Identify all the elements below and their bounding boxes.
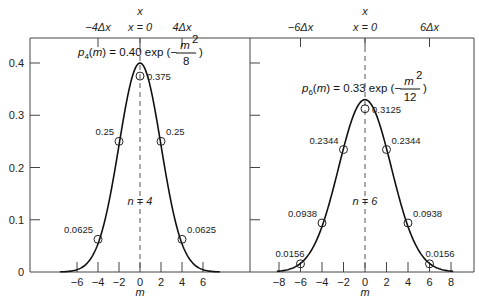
- formula-close-paren: ): [423, 82, 427, 94]
- x-tick-label: 6: [200, 276, 206, 288]
- x-tick-label: 2: [383, 276, 389, 288]
- formula: p6(m) = 0.33 exp (−: [301, 82, 401, 97]
- formula-denominator: 8: [183, 55, 189, 67]
- x-tick-label: −6: [294, 276, 307, 288]
- formula-exponent: 2: [192, 33, 198, 45]
- y-tick-label: 0.1: [9, 214, 24, 226]
- x-tick-label: 2: [158, 276, 164, 288]
- x-tick-label: −2: [337, 276, 350, 288]
- panel-right: −8−6−4−202468m−6Δxx = 06Δxx0.01560.09380…: [250, 5, 474, 298]
- y-tick-label: 0.3: [9, 109, 24, 121]
- point-value-label: 0.25: [96, 126, 115, 137]
- top-tick-label: x = 0: [352, 21, 378, 33]
- n-label: n = 6: [353, 195, 379, 207]
- x-axis-label: m: [135, 286, 144, 298]
- top-axis-label: x: [361, 5, 368, 17]
- x-tick-label: −6: [71, 276, 84, 288]
- x-tick-label: 4: [405, 276, 411, 288]
- panel-left: 00.10.20.30.4−6−4−20246m−4Δxx = 04Δxx0.0…: [9, 5, 250, 298]
- x-tick-label: 6: [426, 276, 432, 288]
- x-tick-label: −2: [113, 276, 126, 288]
- formula-exponent: 2: [416, 69, 422, 81]
- x-tick-label: −4: [92, 276, 105, 288]
- point-value-label: 0.2344: [309, 135, 338, 146]
- point-value-label: 0.0938: [413, 208, 442, 219]
- n-label: n = 4: [128, 195, 153, 207]
- top-tick-label: 4Δx: [173, 21, 192, 33]
- x-axis-label: m: [360, 286, 369, 298]
- formula-close-paren: ): [199, 46, 203, 58]
- point-value-label: 0.0625: [187, 224, 216, 235]
- top-tick-label: 6Δx: [420, 21, 439, 33]
- x-tick-label: −4: [316, 276, 329, 288]
- formula-denominator: 12: [404, 91, 417, 103]
- formula: p4(m) = 0.40 exp (−: [77, 46, 177, 61]
- top-axis-label: x: [136, 5, 143, 17]
- y-tick-label: 0.2: [9, 162, 24, 174]
- point-value-label: 0.2344: [392, 135, 421, 146]
- point-value-label: 0.0938: [288, 208, 317, 219]
- top-tick-label: x = 0: [127, 21, 153, 33]
- x-tick-label: 8: [448, 276, 454, 288]
- top-tick-label: −6Δx: [288, 21, 314, 33]
- point-value-label: 0.25: [166, 126, 185, 137]
- y-tick-label: 0.4: [9, 57, 24, 69]
- point-value-label: 0.0625: [64, 224, 93, 235]
- formula-numerator: m: [180, 39, 190, 51]
- formula-numerator: m: [404, 75, 414, 87]
- x-tick-label: −8: [273, 276, 286, 288]
- binomial-gaussian-figure: 00.10.20.30.4−6−4−20246m−4Δxx = 04Δxx0.0…: [0, 0, 479, 300]
- x-tick-label: 4: [179, 276, 185, 288]
- point-value-label: 0.0156: [275, 248, 304, 259]
- point-value-label: 0.3125: [372, 104, 401, 115]
- y-tick-label: 0: [18, 266, 24, 278]
- point-value-label: 0.375: [147, 71, 171, 82]
- point-value-label: 0.0156: [426, 248, 455, 259]
- top-tick-label: −4Δx: [85, 21, 111, 33]
